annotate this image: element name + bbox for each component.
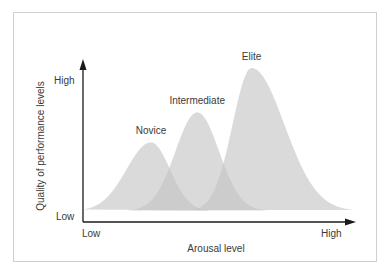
arousal-performance-diagram: High Low Low High Arousal level Quality … [0, 0, 387, 273]
x-tick-low: Low [82, 228, 101, 239]
series-label-intermediate: Intermediate [169, 95, 225, 106]
curve-elite [191, 68, 355, 210]
x-axis-arrowhead-icon [345, 219, 356, 226]
x-tick-high: High [321, 228, 342, 239]
x-axis-label: Arousal level [187, 243, 244, 254]
curves-group [83, 68, 355, 211]
series-label-novice: Novice [136, 125, 167, 136]
y-axis-arrowhead-icon [80, 59, 87, 70]
series-label-elite: Elite [242, 51, 262, 62]
y-tick-low: Low [56, 211, 75, 222]
y-axis-label: Quality of performance levels [35, 81, 46, 211]
y-tick-high: High [54, 75, 75, 86]
